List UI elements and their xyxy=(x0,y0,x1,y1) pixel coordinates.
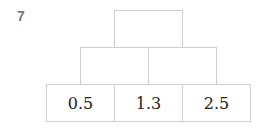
pyramid-cell-bottom-left: 0.5 xyxy=(46,84,115,122)
pyramid-cell-middle-right[interactable] xyxy=(148,47,217,85)
pyramid-cell-bottom-middle: 1.3 xyxy=(114,84,183,122)
pyramid-cell-middle-left[interactable] xyxy=(80,47,149,85)
problem-number: 7 xyxy=(17,8,25,24)
pyramid-cell-bottom-right: 2.5 xyxy=(182,84,251,122)
pyramid-cell-top[interactable] xyxy=(114,10,183,48)
